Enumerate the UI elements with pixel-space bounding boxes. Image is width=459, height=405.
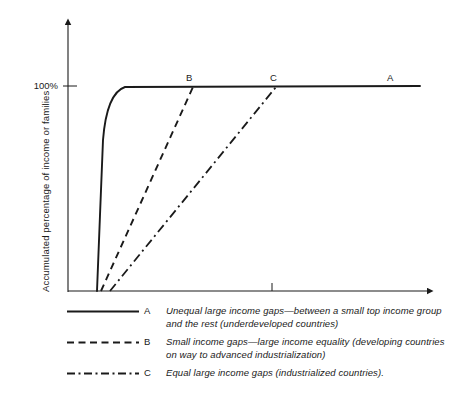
legend-key-b: B (140, 336, 166, 348)
legend-line-sample-dashed (66, 336, 140, 349)
series-line-c (110, 87, 276, 291)
legend-line-sample-solid (66, 305, 140, 318)
curve-label-c: C (270, 72, 277, 83)
legend: A Unequal large income gaps—between a sm… (66, 305, 456, 387)
series-line-a (97, 86, 420, 291)
legend-description-a-line1: Unequal large income gaps—between a smal… (166, 305, 442, 316)
series-line-b (101, 87, 193, 291)
legend-item-c: C Equal large income gaps (industrialize… (66, 367, 456, 381)
curve-label-b: B (186, 72, 192, 83)
legend-description-b-line1: Small income gaps—large income equality … (166, 336, 445, 347)
legend-key-a: A (140, 305, 166, 317)
legend-item-b: B Small income gaps—large income equalit… (66, 336, 456, 361)
legend-description-a: Unequal large income gaps—between a smal… (166, 305, 456, 330)
legend-description-c: Equal large income gaps (industrialized … (166, 367, 456, 380)
legend-description-c-line1: Equal large income gaps (industrialized … (166, 367, 384, 378)
legend-description-b: Small income gaps—large income equality … (166, 336, 456, 361)
y-tick-label-100: 100% (22, 80, 58, 91)
lorenz-curve-figure: Accumulated percentage of income or fami… (0, 0, 459, 405)
legend-description-b-line2: on way to advanced industrialization) (166, 349, 456, 362)
legend-item-a: A Unequal large income gaps—between a sm… (66, 305, 456, 330)
legend-description-a-line2: and the rest (underdeveloped countries) (166, 318, 456, 331)
curve-label-a: A (387, 72, 393, 83)
legend-key-c: C (140, 367, 166, 379)
legend-line-sample-dashdot (66, 367, 140, 380)
